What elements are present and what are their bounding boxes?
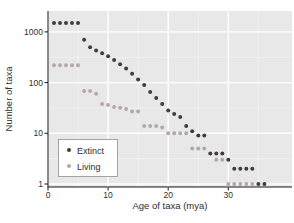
data-point-living bbox=[244, 182, 248, 186]
data-point-extinct bbox=[100, 51, 104, 55]
data-point-living bbox=[184, 131, 188, 135]
data-point-living bbox=[118, 106, 122, 110]
data-point-living bbox=[142, 124, 146, 128]
data-point-extinct bbox=[130, 72, 134, 76]
data-point-extinct bbox=[214, 152, 218, 156]
data-point-extinct bbox=[256, 182, 260, 186]
data-point-living bbox=[94, 92, 98, 96]
data-point-living bbox=[178, 131, 182, 135]
data-point-living bbox=[52, 63, 56, 67]
x-tick-label: 10 bbox=[103, 190, 113, 200]
data-point-extinct bbox=[82, 38, 86, 42]
data-point-extinct bbox=[226, 158, 230, 162]
data-point-extinct bbox=[148, 90, 152, 94]
x-tick-label: 30 bbox=[224, 190, 234, 200]
data-point-living bbox=[220, 158, 224, 162]
y-axis-ticks: 1101001000 bbox=[24, 27, 48, 189]
data-point-extinct bbox=[136, 78, 140, 82]
data-point-extinct bbox=[124, 67, 128, 71]
data-point-extinct bbox=[118, 62, 122, 66]
x-tick-label: 0 bbox=[46, 190, 51, 200]
data-point-extinct bbox=[106, 54, 110, 58]
data-point-living bbox=[160, 126, 164, 130]
legend-label-living: Living bbox=[77, 162, 101, 172]
y-tick-label: 10 bbox=[34, 128, 44, 138]
x-axis-title: Age of taxa (mya) bbox=[133, 200, 208, 211]
taxa-survivorship-figure: 0102030 1101001000 Age of taxa (mya) Num… bbox=[0, 0, 294, 223]
data-point-extinct bbox=[202, 134, 206, 138]
data-point-living bbox=[106, 103, 110, 107]
legend-dot-living bbox=[67, 164, 71, 168]
legend: Extinct Living bbox=[59, 140, 118, 177]
data-point-extinct bbox=[70, 21, 74, 25]
data-point-living bbox=[166, 131, 170, 135]
data-point-extinct bbox=[178, 115, 182, 119]
data-point-extinct bbox=[58, 21, 62, 25]
data-point-extinct bbox=[88, 45, 92, 49]
data-point-living bbox=[148, 124, 152, 128]
data-point-living bbox=[190, 147, 194, 151]
legend-label-extinct: Extinct bbox=[77, 146, 105, 156]
scatter-plot: 0102030 1101001000 Age of taxa (mya) Num… bbox=[0, 0, 294, 223]
data-point-extinct bbox=[112, 58, 116, 62]
data-point-living bbox=[70, 63, 74, 67]
data-point-extinct bbox=[160, 102, 164, 106]
y-tick-label: 1000 bbox=[24, 27, 43, 37]
legend-dot-extinct bbox=[67, 148, 71, 152]
data-point-living bbox=[124, 107, 128, 111]
data-point-extinct bbox=[64, 21, 68, 25]
data-point-extinct bbox=[172, 112, 176, 116]
data-point-extinct bbox=[196, 134, 200, 138]
data-point-extinct bbox=[208, 152, 212, 156]
y-tick-label: 1 bbox=[38, 179, 43, 189]
data-point-living bbox=[196, 147, 200, 151]
data-point-living bbox=[202, 147, 206, 151]
data-point-living bbox=[232, 182, 236, 186]
data-point-living bbox=[82, 89, 86, 93]
data-point-living bbox=[136, 109, 140, 113]
data-point-living bbox=[226, 182, 230, 186]
data-point-living bbox=[76, 63, 80, 67]
data-point-living bbox=[214, 158, 218, 162]
data-point-living bbox=[88, 89, 92, 93]
data-point-living bbox=[130, 109, 134, 113]
y-axis-title: Number of taxa bbox=[3, 66, 14, 132]
data-point-living bbox=[172, 131, 176, 135]
data-point-extinct bbox=[250, 167, 254, 171]
data-point-extinct bbox=[52, 21, 56, 25]
data-point-extinct bbox=[244, 167, 248, 171]
data-point-extinct bbox=[76, 21, 80, 25]
x-tick-label: 20 bbox=[163, 190, 173, 200]
data-point-living bbox=[238, 182, 242, 186]
data-point-extinct bbox=[238, 167, 242, 171]
data-point-extinct bbox=[154, 96, 158, 100]
data-point-living bbox=[58, 63, 62, 67]
data-point-living bbox=[112, 105, 116, 109]
data-point-extinct bbox=[184, 124, 188, 128]
data-point-extinct bbox=[220, 152, 224, 156]
data-point-living bbox=[250, 182, 254, 186]
data-point-extinct bbox=[94, 49, 98, 53]
data-point-extinct bbox=[262, 182, 266, 186]
x-axis-ticks: 0102030 bbox=[46, 188, 234, 200]
data-point-living bbox=[154, 124, 158, 128]
data-point-extinct bbox=[166, 109, 170, 113]
data-point-extinct bbox=[232, 167, 236, 171]
data-point-extinct bbox=[190, 129, 194, 133]
data-point-living bbox=[64, 63, 68, 67]
y-tick-label: 100 bbox=[29, 78, 43, 88]
data-point-living bbox=[100, 102, 104, 106]
data-point-extinct bbox=[142, 83, 146, 87]
